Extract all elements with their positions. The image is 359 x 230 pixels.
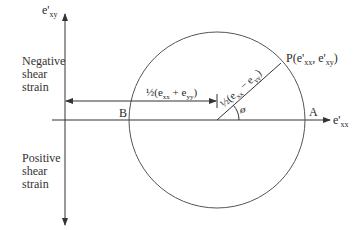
horizontal-axis-label: e'xx [333,113,349,129]
angle-label: ø [239,103,246,115]
point-b-label: B [119,106,127,120]
point-p-label: P(e'xx, e'xy) [286,51,338,67]
positive-line-3: strain [22,178,61,191]
vertical-axis-label: e'xy [42,3,58,19]
point-a-label: A [309,105,318,119]
positive-shear-strain-label: Positive shear strain [22,152,61,191]
negative-line-3: strain [22,81,65,94]
angle-arc [233,105,239,120]
mohr-circle-diagram: e'xy e'xx B A P(e'xx, e'xy) ½(exx + eyy)… [0,0,359,230]
center-offset-label: ½(exx + eyy) [146,86,197,101]
negative-shear-strain-label: Negative shear strain [22,55,65,94]
